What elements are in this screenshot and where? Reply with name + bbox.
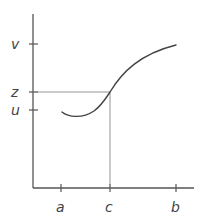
label-u: u	[11, 102, 20, 118]
label-b: b	[171, 199, 180, 215]
label-a: a	[56, 199, 65, 215]
label-z: z	[10, 84, 19, 100]
function-graph: v z u a c b	[0, 0, 220, 221]
label-c: c	[105, 199, 113, 215]
function-curve	[62, 45, 176, 116]
label-v: v	[11, 36, 20, 52]
